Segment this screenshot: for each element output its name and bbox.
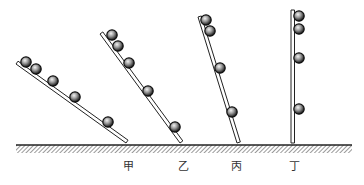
ball (201, 15, 211, 25)
ball (113, 41, 123, 51)
ground-surface (16, 145, 352, 153)
ball (48, 76, 58, 86)
ball (31, 64, 41, 74)
board-label-2: 乙 (178, 157, 189, 173)
ball (21, 57, 31, 67)
ball (170, 122, 180, 132)
ball (143, 86, 153, 96)
ground-hatch (16, 145, 352, 153)
ball (227, 107, 237, 117)
ball (294, 104, 304, 114)
ball (294, 11, 304, 21)
board-2 (100, 30, 183, 143)
ball (294, 53, 304, 63)
ball (70, 92, 80, 102)
board-4 (291, 10, 304, 143)
board-1 (16, 57, 128, 143)
board-label-3: 丙 (231, 157, 242, 173)
boards-group (16, 10, 304, 143)
board-3 (198, 15, 240, 143)
incline-board (198, 16, 240, 143)
ball (103, 117, 113, 127)
ball (294, 24, 304, 34)
ball (215, 63, 225, 73)
ball (107, 30, 117, 40)
ball (205, 26, 215, 36)
ball (124, 58, 134, 68)
board-label-1: 甲 (123, 157, 134, 173)
board-label-4: 丁 (289, 157, 300, 173)
